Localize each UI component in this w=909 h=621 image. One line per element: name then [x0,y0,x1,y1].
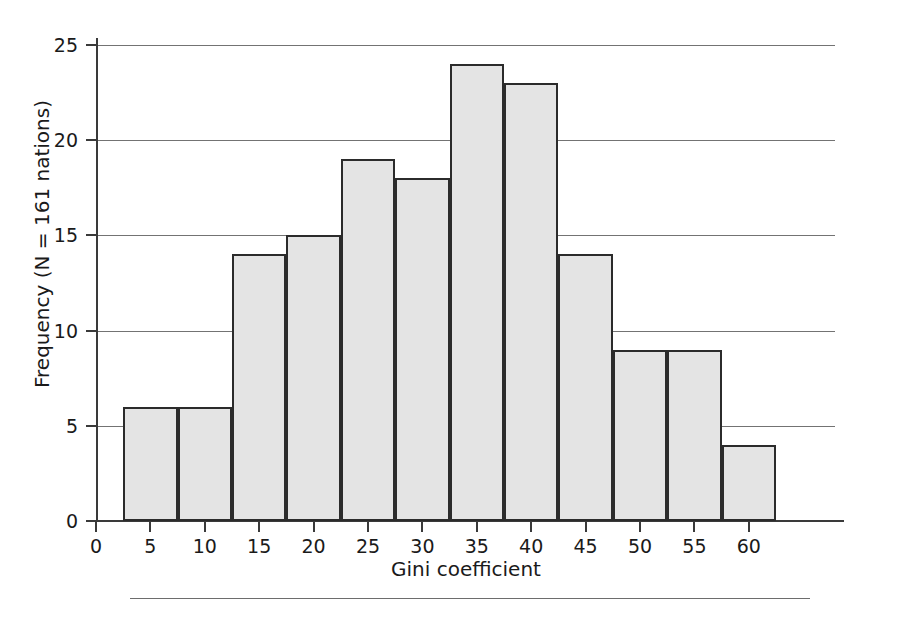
histogram-bar [123,407,177,521]
x-axis-tick [639,521,641,532]
x-axis-tick-label: 0 [66,535,126,557]
x-axis-tick [149,521,151,532]
histogram-bar [395,178,449,521]
x-axis-tick [258,521,260,532]
histogram-bar [722,445,776,521]
x-axis-tick-label: 40 [501,535,561,557]
x-axis-tick-label: 60 [719,535,779,557]
histogram-figure: 0510152025 051015202530354045505560 Gini… [0,0,909,621]
caption-divider-rule [130,598,810,599]
x-axis-tick [476,521,478,532]
histogram-bar [178,407,232,521]
x-axis-tick-label: 45 [556,535,616,557]
y-axis-tick [86,234,98,236]
histogram-bar [504,83,558,521]
x-axis-tick [530,521,532,532]
x-axis-title: Gini coefficient [96,557,836,581]
histogram-bar [232,254,286,521]
y-axis-spine [96,38,98,522]
x-axis-tick [204,521,206,532]
x-axis-tick-label: 20 [284,535,344,557]
x-axis-tick-label: 15 [229,535,289,557]
y-axis-tick-label: 0 [18,510,78,532]
x-axis-tick [693,521,695,532]
y-axis-tick [86,330,98,332]
y-axis-tick [86,425,98,427]
x-axis-tick [313,521,315,532]
y-axis-tick [86,139,98,141]
x-axis-tick [585,521,587,532]
x-axis-tick [748,521,750,532]
x-axis-tick-label: 50 [610,535,670,557]
gridline [96,45,835,46]
x-axis-tick-label: 35 [447,535,507,557]
histogram-bar [450,64,504,521]
x-axis-tick-label: 10 [175,535,235,557]
histogram-bar [667,350,721,521]
y-axis-tick [86,44,98,46]
histogram-bar [341,159,395,521]
x-axis-tick-label: 30 [392,535,452,557]
y-axis-title: Frequency (N = 161 nations) [30,0,54,494]
histogram-bar [558,254,612,521]
x-axis-tick [421,521,423,532]
x-axis-tick [367,521,369,532]
histogram-bar [613,350,667,521]
x-axis-tick [95,521,97,532]
x-axis-tick-label: 25 [338,535,398,557]
histogram-bar [286,235,340,521]
x-axis-tick-label: 5 [120,535,180,557]
x-axis-tick-label: 55 [664,535,724,557]
